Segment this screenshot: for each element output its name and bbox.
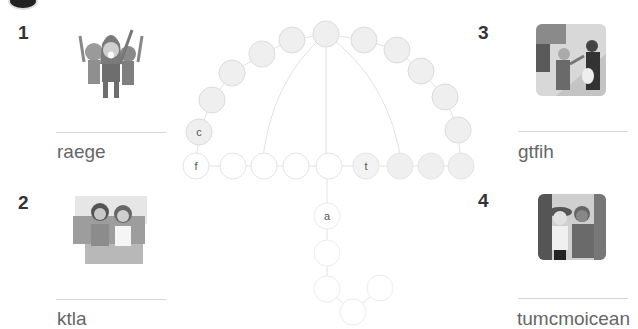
cell-arc-10[interactable] <box>432 84 458 110</box>
cell-arc-7[interactable] <box>351 27 377 53</box>
cell-arc-9[interactable] <box>408 58 434 84</box>
cell-arc-2[interactable] <box>199 87 225 113</box>
cell-arc-5[interactable] <box>279 27 305 53</box>
cell-arc-3[interactable] <box>219 60 245 86</box>
cell-arc-8[interactable] <box>384 37 410 63</box>
cell-handle-5[interactable] <box>367 275 393 301</box>
cell-row-4[interactable] <box>283 153 309 179</box>
cell-handle-4[interactable] <box>340 299 366 325</box>
cell-row-7[interactable] <box>387 153 413 179</box>
cell-row-8[interactable] <box>418 153 444 179</box>
cell-row-5[interactable] <box>316 153 342 179</box>
cell-row-3[interactable] <box>251 153 277 179</box>
cell-handle-3[interactable] <box>314 276 340 302</box>
cell-row-2[interactable] <box>220 153 246 179</box>
cell-row-9[interactable] <box>448 153 474 179</box>
cell-arc-4[interactable] <box>249 41 275 67</box>
letter-t: t <box>364 160 367 172</box>
cell-arc-6[interactable] <box>313 21 339 47</box>
letter-a: a <box>324 210 331 222</box>
cell-arc-11[interactable] <box>445 117 471 143</box>
cell-handle-2[interactable] <box>314 240 340 266</box>
letter-c: c <box>196 126 202 138</box>
umbrella-word-puzzle: c f t a <box>0 0 638 329</box>
